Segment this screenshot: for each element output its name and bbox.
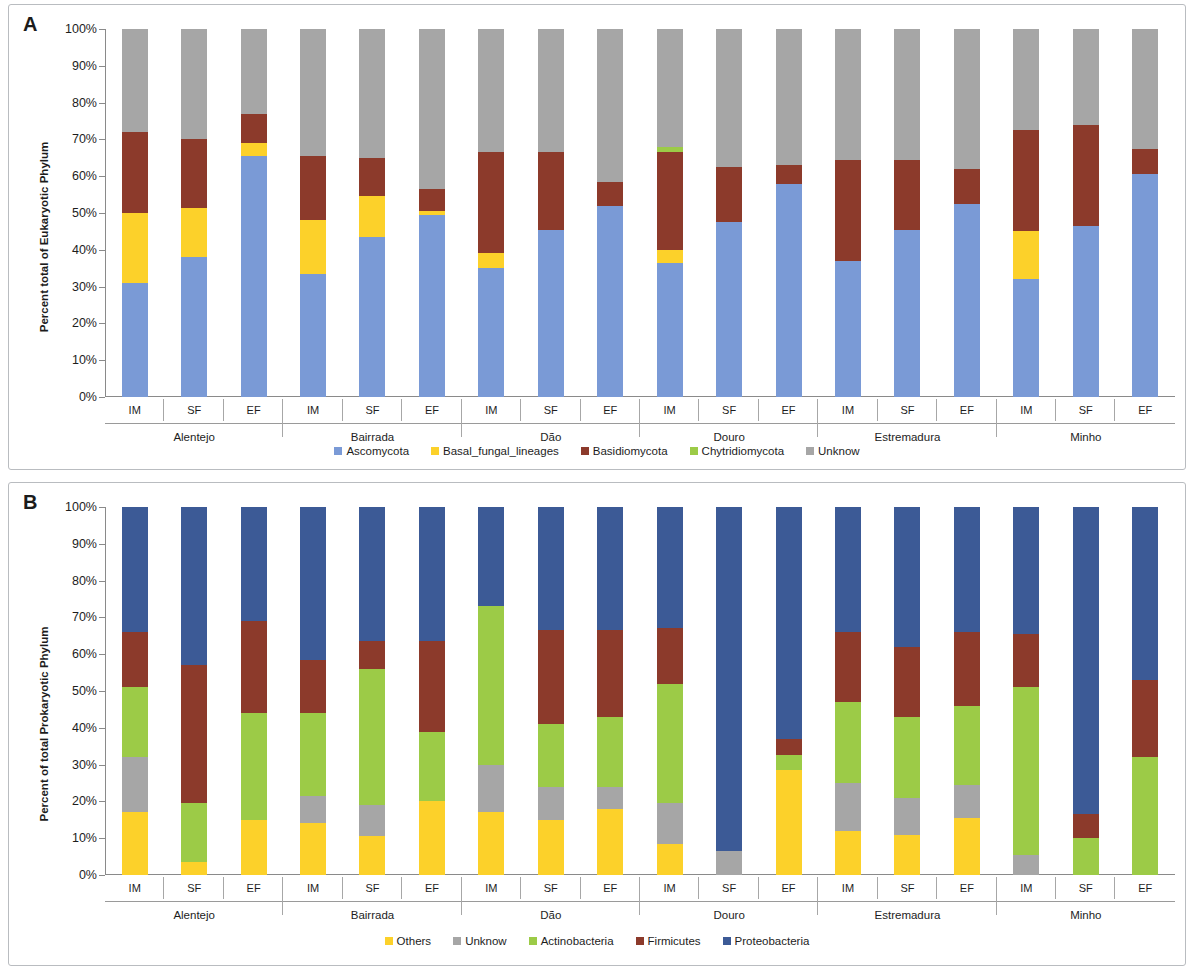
bar-segment-actinobacteria: [478, 606, 504, 764]
bar-segment-unknow: [1132, 29, 1158, 149]
panel-a-bars: [105, 29, 1175, 397]
y-tick-label: 60%: [57, 169, 97, 183]
bar-slot: [759, 507, 818, 875]
bar-segment-basidiomycota: [359, 158, 385, 197]
stacked-bar[interactable]: [1013, 507, 1039, 875]
stacked-bar[interactable]: [1073, 507, 1099, 875]
bar-segment-proteobacteria: [835, 507, 861, 632]
legend-item[interactable]: Actinobacteria: [529, 935, 614, 947]
stacked-bar[interactable]: [538, 507, 564, 875]
stacked-bar[interactable]: [894, 29, 920, 397]
stacked-bar[interactable]: [954, 29, 980, 397]
bar-segment-basidiomycota: [181, 139, 207, 207]
y-tick-mark: [99, 654, 105, 655]
legend-item[interactable]: Unknow: [806, 445, 860, 457]
bar-segment-others: [300, 823, 326, 875]
sample-label-sf: SF: [164, 875, 223, 901]
legend-item[interactable]: Ascomycota: [334, 445, 409, 457]
y-tick-mark: [99, 323, 105, 324]
stacked-bar[interactable]: [597, 507, 623, 875]
bar-segment-proteobacteria: [181, 507, 207, 665]
bar-segment-others: [181, 862, 207, 875]
stacked-bar[interactable]: [657, 507, 683, 875]
stacked-bar[interactable]: [954, 507, 980, 875]
sample-label-ef: EF: [937, 397, 996, 423]
legend-item[interactable]: Others: [385, 935, 432, 947]
sample-label-ef: EF: [581, 397, 640, 423]
stacked-bar[interactable]: [776, 507, 802, 875]
y-tick-mark: [99, 728, 105, 729]
bar-segment-proteobacteria: [954, 507, 980, 632]
legend-label: Unknow: [465, 935, 507, 947]
bar-segment-others: [122, 812, 148, 875]
bar-segment-unknow: [122, 29, 148, 132]
bar-segment-proteobacteria: [478, 507, 504, 606]
legend-label: Actinobacteria: [541, 935, 614, 947]
stacked-bar[interactable]: [300, 29, 326, 397]
bar-segment-ascomycota: [1013, 279, 1039, 397]
bar-segment-unknow: [954, 29, 980, 169]
bar-segment-proteobacteria: [776, 507, 802, 739]
stacked-bar[interactable]: [1132, 29, 1158, 397]
stacked-bar[interactable]: [835, 29, 861, 397]
stacked-bar[interactable]: [359, 507, 385, 875]
bar-segment-unknow: [181, 29, 207, 139]
legend-item[interactable]: Firmicutes: [636, 935, 701, 947]
legend-swatch-icon: [385, 937, 393, 945]
stacked-bar[interactable]: [894, 507, 920, 875]
legend-item[interactable]: Basal_fungal_lineages: [431, 445, 559, 457]
bar-segment-basidiomycota: [538, 152, 564, 229]
bar-segment-basidiomycota: [835, 160, 861, 261]
bar-segment-actinobacteria: [894, 717, 920, 798]
legend-label: Others: [397, 935, 432, 947]
stacked-bar[interactable]: [181, 29, 207, 397]
stacked-bar[interactable]: [1132, 507, 1158, 875]
stacked-bar[interactable]: [300, 507, 326, 875]
stacked-bar[interactable]: [657, 29, 683, 397]
stacked-bar[interactable]: [478, 507, 504, 875]
bar-segment-unknow: [478, 29, 504, 152]
stacked-bar[interactable]: [597, 29, 623, 397]
sample-label-sf: SF: [878, 397, 937, 423]
stacked-bar[interactable]: [716, 29, 742, 397]
bar-slot: [164, 29, 223, 397]
bar-segment-unknow: [894, 29, 920, 160]
stacked-bar[interactable]: [122, 507, 148, 875]
bar-segment-actinobacteria: [359, 669, 385, 805]
stacked-bar[interactable]: [1013, 29, 1039, 397]
stacked-bar[interactable]: [122, 29, 148, 397]
legend-item[interactable]: Basidiomycota: [581, 445, 668, 457]
legend-item[interactable]: Chytridiomycota: [690, 445, 784, 457]
stacked-bar[interactable]: [181, 507, 207, 875]
stacked-bar[interactable]: [419, 507, 445, 875]
stacked-bar[interactable]: [1073, 29, 1099, 397]
bar-segment-proteobacteria: [1073, 507, 1099, 814]
bar-slot: [164, 507, 223, 875]
stacked-bar[interactable]: [241, 29, 267, 397]
y-tick-label: 100%: [57, 500, 97, 514]
bar-segment-actinobacteria: [597, 717, 623, 787]
y-tick-label: 90%: [57, 59, 97, 73]
bar-segment-basidiomycota: [1073, 125, 1099, 226]
stacked-bar[interactable]: [835, 507, 861, 875]
stacked-bar[interactable]: [538, 29, 564, 397]
sample-label-im: IM: [818, 397, 877, 423]
panel-b-x-axis: IMSFEFIMSFEFIMSFEFIMSFEFIMSFEFIMSFEF Ale…: [105, 875, 1175, 931]
legend-item[interactable]: Proteobacteria: [723, 935, 810, 947]
bar-segment-ascomycota: [538, 230, 564, 397]
stacked-bar[interactable]: [241, 507, 267, 875]
sample-label-ef: EF: [1115, 397, 1174, 423]
bar-segment-basidiomycota: [122, 132, 148, 213]
bar-segment-actinobacteria: [1013, 687, 1039, 854]
legend-item[interactable]: Unknow: [453, 935, 507, 947]
bar-segment-ascomycota: [478, 268, 504, 397]
y-tick-label: 90%: [57, 537, 97, 551]
stacked-bar[interactable]: [478, 29, 504, 397]
bar-segment-firmicutes: [419, 641, 445, 731]
stacked-bar[interactable]: [359, 29, 385, 397]
bar-segment-firmicutes: [241, 621, 267, 713]
stacked-bar[interactable]: [776, 29, 802, 397]
stacked-bar[interactable]: [716, 507, 742, 875]
stacked-bar[interactable]: [419, 29, 445, 397]
panel-b-region-labels: AlentejoBairradaDãoDouroEstremaduraMinho: [105, 901, 1175, 929]
